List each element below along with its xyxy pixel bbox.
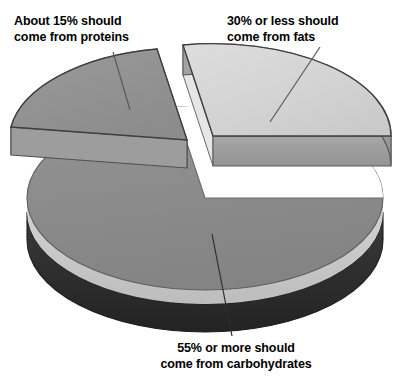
label-fats-line2: come from fats <box>227 29 338 45</box>
label-proteins-line1: About 15% should <box>14 14 121 28</box>
label-carbohydrates-line2: come from carbohydrates <box>124 356 348 372</box>
label-fats-line1: 30% or less should <box>227 14 338 28</box>
slice-fats[interactable] <box>183 44 391 166</box>
label-proteins: About 15% should come from proteins <box>14 13 129 45</box>
label-carbohydrates-line1: 55% or more should <box>177 341 295 355</box>
label-fats: 30% or less should come from fats <box>227 13 338 45</box>
fats-top-face <box>183 44 391 136</box>
fats-front-side-wall <box>213 136 391 166</box>
label-proteins-line2: come from proteins <box>14 29 129 45</box>
proteins-top-face <box>11 49 187 140</box>
slice-proteins[interactable] <box>11 49 187 168</box>
label-carbohydrates: 55% or more should come from carbohydrat… <box>124 340 348 372</box>
exploded-pie-chart-graphic <box>0 0 404 384</box>
pie-chart-figure: About 15% should come from proteins 30% … <box>0 0 404 384</box>
